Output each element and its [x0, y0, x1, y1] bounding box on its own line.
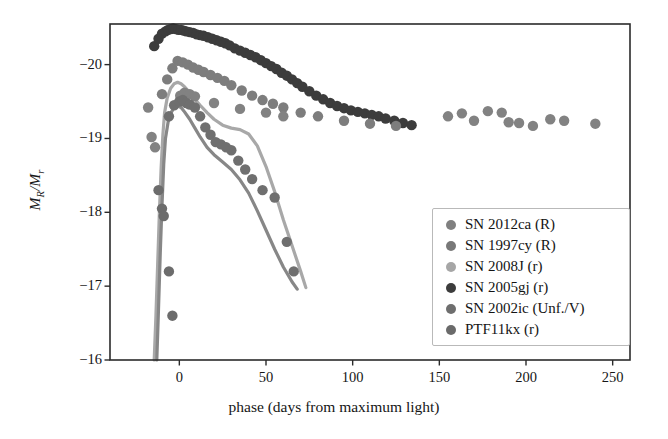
legend-item[interactable]: SN 1997cy (R)	[441, 235, 623, 256]
legend-item[interactable]: SN 2005gj (r)	[441, 277, 623, 298]
data-point	[559, 116, 569, 126]
data-point	[237, 85, 247, 95]
y-tick-label: −17	[42, 277, 102, 294]
data-point	[528, 121, 538, 131]
data-point	[590, 118, 600, 128]
x-tick-label: 200	[496, 369, 556, 386]
y-axis-label-text: MR/Mr	[26, 170, 43, 211]
y-axis-label: MR/Mr	[26, 130, 46, 250]
data-point	[164, 266, 174, 276]
data-point	[313, 111, 323, 121]
legend-item-label: SN 2008J (r)	[465, 259, 543, 274]
data-point	[153, 185, 163, 195]
data-point	[162, 74, 172, 84]
data-point	[365, 118, 375, 128]
y-tick-label: −16	[42, 351, 102, 368]
x-tick-label: 50	[236, 369, 296, 386]
data-point	[545, 114, 555, 124]
data-point	[503, 117, 513, 127]
data-point	[269, 192, 279, 202]
data-point	[157, 89, 167, 99]
data-point	[268, 99, 278, 109]
data-point	[233, 155, 243, 165]
data-point	[380, 113, 390, 123]
data-point	[443, 111, 453, 121]
data-point	[164, 111, 174, 121]
legend-item-label: SN 1997cy (R)	[465, 238, 556, 253]
y-tick-label: −18	[42, 203, 102, 220]
legend-item-label: SN 2012ca (R)	[465, 217, 555, 232]
data-point	[150, 142, 160, 152]
data-point	[235, 104, 245, 114]
data-point	[289, 266, 299, 276]
data-point	[146, 132, 156, 142]
data-point	[143, 102, 153, 112]
data-point	[278, 102, 288, 112]
data-point	[514, 118, 524, 128]
legend-item-label: SN 2005gj (r)	[465, 280, 548, 295]
data-point	[247, 90, 257, 100]
legend-marker-icon	[446, 241, 456, 251]
y-tick-label: −20	[42, 56, 102, 73]
legend-item[interactable]: SN 2012ca (R)	[441, 214, 623, 235]
data-point	[257, 185, 267, 195]
data-point	[167, 310, 177, 320]
x-tick-label: 250	[583, 369, 643, 386]
data-point	[497, 107, 507, 117]
data-point	[257, 95, 267, 105]
legend-marker-icon	[446, 304, 456, 314]
legend-item-label: PTF11kx (r)	[465, 322, 539, 337]
legend-item[interactable]: SN 2008J (r)	[441, 256, 623, 277]
data-point	[261, 107, 271, 117]
data-point	[247, 174, 257, 184]
legend-marker-icon	[446, 283, 456, 293]
data-point	[195, 111, 205, 121]
data-point	[391, 121, 401, 131]
data-point	[278, 111, 288, 121]
data-point	[190, 102, 200, 112]
y-tick-label: −19	[42, 129, 102, 146]
legend-item[interactable]: SN 2002ic (Unf./V)	[441, 298, 623, 319]
data-point	[457, 108, 467, 118]
data-point	[159, 211, 169, 221]
legend-item[interactable]: PTF11kx (r)	[441, 319, 623, 340]
data-point	[295, 107, 305, 117]
data-point	[209, 98, 219, 108]
x-tick-label: 100	[323, 369, 383, 386]
legend-marker-icon	[446, 262, 456, 272]
x-axis-label: phase (days from maximum light)	[0, 398, 668, 416]
legend-item-label: SN 2002ic (Unf./V)	[465, 301, 585, 316]
legend-marker-icon	[446, 220, 456, 230]
data-point	[226, 80, 236, 90]
data-point	[240, 164, 250, 174]
legend-marker-icon	[446, 325, 456, 335]
data-point	[339, 116, 349, 126]
data-point	[483, 106, 493, 116]
x-tick-label: 150	[409, 369, 469, 386]
data-point	[226, 145, 236, 155]
data-point	[469, 116, 479, 126]
data-point	[406, 120, 416, 130]
x-tick-label: 0	[149, 369, 209, 386]
chart-legend: SN 2012ca (R) SN 1997cy (R) SN 2008J (r)…	[432, 208, 630, 346]
data-point	[282, 237, 292, 247]
figure-canvas: MR/Mr phase (days from maximum light) SN…	[0, 0, 668, 439]
